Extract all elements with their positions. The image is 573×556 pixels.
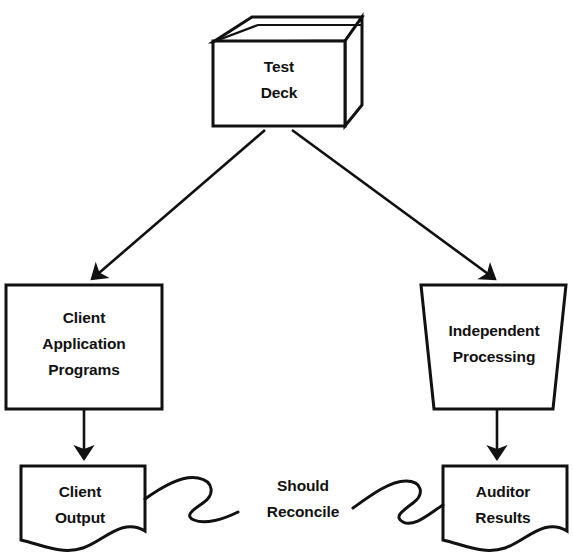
edge-label-should-reconcile: Should Reconcile (267, 477, 340, 520)
test-deck-top-face (213, 17, 362, 42)
node-test-deck[interactable]: Test Deck (213, 17, 362, 126)
test-deck-label-line1: Test (264, 58, 294, 75)
node-independent-processing[interactable]: Independent Processing (421, 285, 566, 409)
arrow-test-deck-to-client-application-programs (92, 130, 265, 279)
client-application-programs-label-line1: Client (63, 309, 105, 326)
auditor-results-label-line2: Results (475, 509, 530, 526)
independent-processing-trapezoid (421, 285, 566, 409)
client-output-label-line2: Output (55, 509, 105, 526)
test-deck-label-line2: Deck (261, 84, 298, 101)
client-output-label-line1: Client (59, 483, 101, 500)
independent-processing-label-line1: Independent (448, 322, 539, 339)
should-reconcile-label-line2: Reconcile (267, 503, 340, 520)
flowchart-svg: Test Deck Client Application Programs In… (0, 0, 573, 556)
node-client-application-programs[interactable]: Client Application Programs (6, 285, 162, 409)
squiggle-connector-right (353, 481, 443, 523)
should-reconcile-label-line1: Should (277, 477, 329, 494)
node-client-output[interactable]: Client Output (21, 466, 145, 550)
auditor-results-label-line1: Auditor (476, 483, 530, 500)
node-auditor-results[interactable]: Auditor Results (443, 466, 567, 550)
independent-processing-label-line2: Processing (453, 348, 536, 365)
client-application-programs-label-line3: Programs (48, 361, 120, 378)
client-application-programs-label-line2: Application (42, 335, 125, 352)
diagram-canvas: Test Deck Client Application Programs In… (0, 0, 573, 556)
squiggle-connector-left (145, 478, 238, 522)
arrow-test-deck-to-independent-processing (292, 130, 495, 279)
